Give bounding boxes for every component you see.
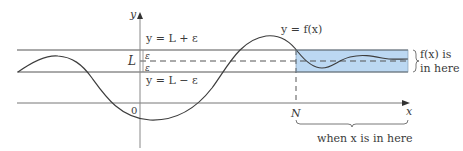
fx-region-label-line2: in here xyxy=(420,62,459,75)
n-label: N xyxy=(290,107,301,120)
y-axis-label: y xyxy=(129,8,137,21)
x-region-brace xyxy=(296,120,408,127)
fx-region-brace xyxy=(413,50,419,72)
limit-at-infinity-diagram: y x 0 y = L + ε y = L − ε L ε ε y = f(x)… xyxy=(0,0,463,151)
epsilon-upper-label: ε xyxy=(145,51,150,61)
origin-label: 0 xyxy=(131,105,137,116)
lower-bound-label: y = L − ε xyxy=(145,74,198,87)
function-curve xyxy=(18,36,408,120)
fx-region-label-line1: f(x) is xyxy=(420,48,452,61)
epsilon-lower-label: ε xyxy=(145,63,150,73)
curve-label: y = f(x) xyxy=(280,23,322,36)
x-axis-label: x xyxy=(406,105,413,118)
y-axis-arrow-icon xyxy=(137,12,143,19)
upper-bound-label: y = L + ε xyxy=(145,32,198,45)
limit-l-label: L xyxy=(127,54,136,68)
x-region-label: when x is in here xyxy=(317,132,412,145)
